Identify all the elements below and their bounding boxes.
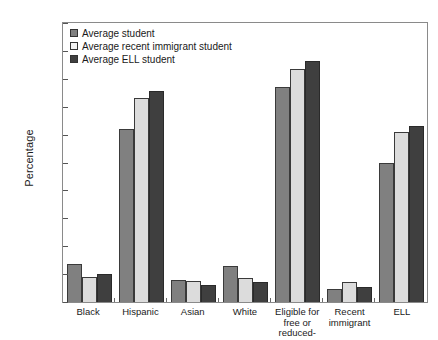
x-axis-label: ELL [376,307,428,340]
bar [201,285,216,302]
y-tick-mark [63,79,68,80]
y-tick-mark [63,163,68,164]
bar [119,129,134,302]
y-tick-mark [63,190,68,191]
x-axis-label: Eligible for free or reduced-price lunch [271,307,323,340]
x-axis-label: Recent immigrant [323,307,375,340]
legend-swatch-icon [70,29,78,37]
legend-swatch-icon [70,55,78,63]
legend-label: Average ELL student [82,54,175,65]
y-axis-title: Percentage [23,98,35,218]
bar [82,277,97,302]
legend-item-average-recent-immigrant-student: Average recent immigrant student [70,40,232,52]
x-axis-label: Asian [167,307,219,340]
y-tick-mark [63,302,68,303]
x-axis-label: Hispanic [114,307,166,340]
bar [305,61,320,302]
bar [171,280,186,302]
bar [97,274,112,302]
bar [342,282,357,302]
bar [253,282,268,302]
bar-group [375,23,427,302]
bar [327,289,342,302]
bar [290,69,305,302]
legend-swatch-icon [70,42,78,50]
bar [67,264,82,302]
legend: Average student Average recent immigrant… [70,27,232,66]
x-axis-label: White [219,307,271,340]
y-tick-mark [63,274,68,275]
y-tick-mark [63,135,68,136]
y-tick-mark [63,246,68,247]
y-tick-mark [63,107,68,108]
bar-chart: Percentage 0102030405060708090100 BlackH… [0,0,438,340]
bar-group [271,23,323,302]
bar-group [323,23,375,302]
bar [223,266,238,302]
legend-label: Average student [82,28,155,39]
y-tick-mark [63,218,68,219]
bar [394,132,409,302]
x-axis-labels: BlackHispanicAsianWhiteEligible for free… [62,307,428,340]
bar [238,278,253,302]
bar [149,91,164,302]
legend-item-average-student: Average student [70,27,232,39]
bar [379,163,394,303]
bar [409,126,424,302]
legend-item-average-ell-student: Average ELL student [70,53,232,65]
bar [186,281,201,302]
y-tick-mark [63,51,68,52]
x-axis-label: Black [62,307,114,340]
bar [357,287,372,302]
bar [134,98,149,302]
y-tick-mark [63,23,68,24]
bar [275,87,290,302]
legend-label: Average recent immigrant student [82,41,232,52]
